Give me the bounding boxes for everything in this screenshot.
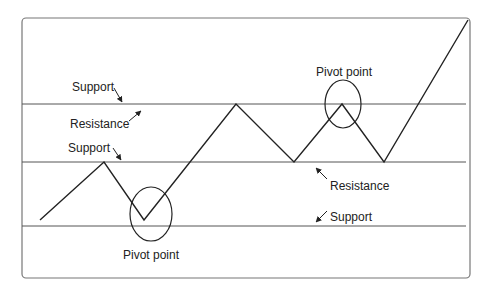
arrow-support-lower <box>316 211 327 222</box>
support-resistance-diagram: Support Resistance Support Pivot point R… <box>0 0 492 292</box>
label-resistance-upper: Resistance <box>70 117 130 131</box>
pivot-circle-low <box>130 187 172 241</box>
arrow-resistance-lower <box>316 168 327 179</box>
label-support-upper: Support <box>72 80 115 94</box>
arrow-resistance-upper <box>129 111 141 121</box>
arrow-support-middle <box>113 148 121 160</box>
arrow-support-upper <box>114 88 122 102</box>
label-support-middle: Support <box>68 141 111 155</box>
label-support-lower: Support <box>330 210 373 224</box>
label-pivot-top: Pivot point <box>316 65 373 79</box>
label-pivot-bottom: Pivot point <box>123 248 180 262</box>
label-resistance-lower: Resistance <box>330 179 390 193</box>
